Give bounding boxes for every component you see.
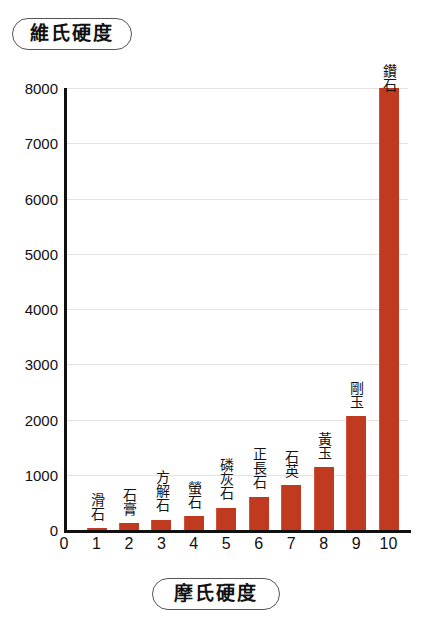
y-tick-label: 1000 xyxy=(6,466,58,483)
y-tick-label: 8000 xyxy=(6,80,58,97)
bar-label: 螢石 xyxy=(187,481,201,509)
bar xyxy=(379,88,399,530)
bar xyxy=(249,497,269,530)
x-tick-label: 9 xyxy=(352,535,361,553)
x-tick-label: 5 xyxy=(222,535,231,553)
y-tick-label: 4000 xyxy=(6,301,58,318)
bar-label: 鑽石 xyxy=(381,64,395,92)
y-tick-label: 0 xyxy=(6,522,58,539)
y-axis-tick-labels: 010002000300040005000600070008000 xyxy=(0,88,58,530)
x-tick-label: 10 xyxy=(380,535,398,553)
bar-label: 剛玉 xyxy=(349,381,363,409)
x-tick-label: 6 xyxy=(254,535,263,553)
x-tick-label: 7 xyxy=(287,535,296,553)
bar-label: 正長石 xyxy=(252,447,266,489)
gridline xyxy=(67,364,408,365)
bar-label: 黃玉 xyxy=(316,432,330,460)
x-axis-title: 摩氏硬度 xyxy=(152,578,280,610)
x-tick-label: 0 xyxy=(60,535,69,553)
x-tick-label: 8 xyxy=(319,535,328,553)
bar-label: 石英 xyxy=(284,450,298,478)
bar xyxy=(314,467,334,531)
bar-label: 磷灰石 xyxy=(219,458,233,500)
gridline xyxy=(67,309,408,310)
bar xyxy=(216,508,236,530)
bar xyxy=(281,485,301,530)
y-tick-label: 3000 xyxy=(6,356,58,373)
y-axis-line xyxy=(64,88,67,530)
y-tick-label: 2000 xyxy=(6,411,58,428)
gridline xyxy=(67,199,408,200)
x-tick-label: 1 xyxy=(92,535,101,553)
y-tick-label: 7000 xyxy=(6,135,58,152)
gridline xyxy=(67,254,408,255)
plot-area xyxy=(64,88,408,530)
bar xyxy=(119,523,139,530)
x-axis-line xyxy=(64,530,411,533)
bar-label: 石膏 xyxy=(122,488,136,516)
bar-label: 滑石 xyxy=(89,493,103,521)
gridline xyxy=(67,88,408,89)
bar xyxy=(151,520,171,531)
y-axis-title: 維氏硬度 xyxy=(12,18,132,50)
bar-label: 方解石 xyxy=(154,470,168,512)
y-tick-label: 5000 xyxy=(6,245,58,262)
bar xyxy=(184,516,204,530)
x-tick-label: 4 xyxy=(189,535,198,553)
bar xyxy=(346,416,366,530)
y-tick-label: 6000 xyxy=(6,190,58,207)
x-tick-label: 3 xyxy=(157,535,166,553)
x-tick-label: 2 xyxy=(124,535,133,553)
gridline xyxy=(67,143,408,144)
